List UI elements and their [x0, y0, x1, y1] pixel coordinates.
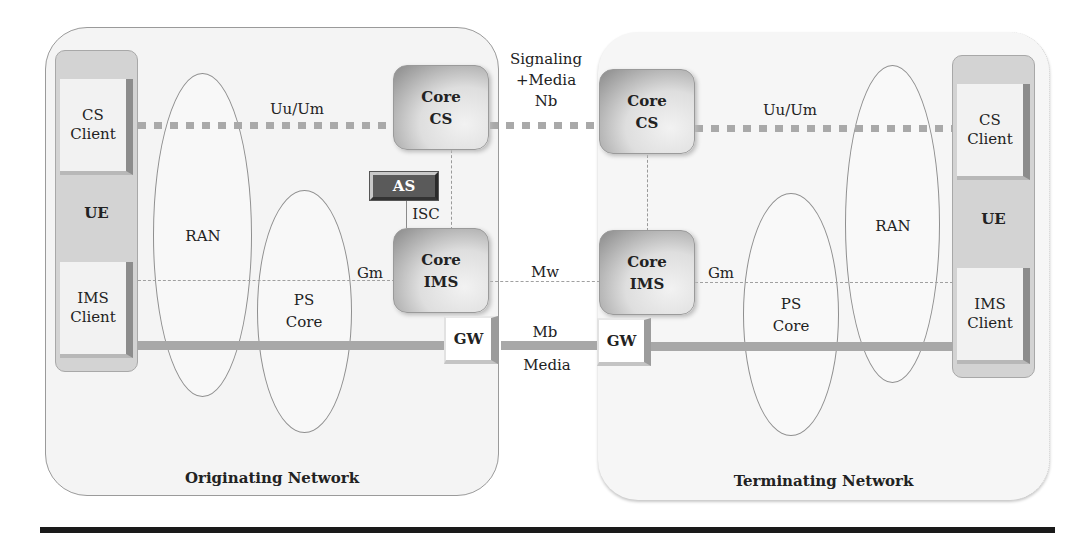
as-node: AS	[370, 172, 438, 200]
media-label: Media	[515, 356, 579, 374]
ran-right-label: RAN	[863, 215, 923, 237]
core-cs-left-line2: CS	[430, 108, 453, 130]
cs-link-right	[695, 125, 953, 132]
gw-left: GW	[444, 316, 498, 364]
media-link-left	[130, 341, 446, 350]
nb-label: Signaling +Media Nb	[506, 49, 586, 112]
core-ims-left-line1: Core	[421, 249, 460, 271]
ps-core-right-label: PS Core	[761, 293, 821, 337]
gm-left-label: Gm	[352, 264, 388, 282]
isc-link	[406, 200, 407, 228]
nb-label-line2: +Media	[506, 70, 586, 91]
core-cs-right-line2: CS	[636, 112, 659, 134]
ims-client-right: IMS Client	[957, 268, 1030, 364]
gm-right-label: Gm	[703, 264, 739, 282]
ims-client-right-line1: IMS	[974, 295, 1006, 314]
ims-client-right-line2: Client	[967, 314, 1013, 333]
gw-right: GW	[597, 318, 651, 366]
core-ims-left-line2: IMS	[424, 271, 458, 293]
cs-client-right-line1: CS	[979, 111, 1001, 130]
cs-client-left-line1: CS	[82, 106, 104, 125]
nb-label-line3: Nb	[506, 91, 586, 112]
cs-client-right: CS Client	[957, 84, 1030, 180]
ps-core-left-label: PS Core	[274, 289, 334, 333]
core-ims-right-line1: Core	[627, 251, 666, 273]
ue-left: CS Client UE IMS Client	[55, 50, 138, 372]
originating-network-label: Originating Network	[46, 469, 498, 487]
core-ims-right: Core IMS	[599, 230, 695, 315]
ran-left-label: RAN	[173, 225, 233, 247]
uu-um-left-label: Uu/Um	[262, 100, 332, 118]
terminating-network-label: Terminating Network	[598, 472, 1049, 490]
mb-label: Mb	[520, 323, 570, 341]
cs-link-left	[138, 122, 396, 129]
mw-link	[490, 281, 600, 282]
cs-client-left: CS Client	[60, 79, 133, 175]
gm-link-right	[695, 282, 953, 283]
ps-core-left-line1: PS	[274, 289, 334, 311]
ps-core-left-line2: Core	[274, 311, 334, 333]
ims-client-left: IMS Client	[60, 262, 133, 358]
mb-media-link	[501, 341, 599, 350]
uu-um-right-label: Uu/Um	[755, 101, 825, 119]
bottom-rule	[40, 527, 1055, 533]
ps-core-right-line2: Core	[761, 315, 821, 337]
cs-client-right-line2: Client	[967, 130, 1013, 149]
core-cs-left: Core CS	[393, 65, 489, 150]
cs-client-left-line2: Client	[70, 125, 116, 144]
ims-client-left-line1: IMS	[77, 289, 109, 308]
ue-right: CS Client UE IMS Client	[952, 55, 1035, 378]
nb-label-line1: Signaling	[506, 49, 586, 70]
ue-left-label: UE	[56, 204, 137, 222]
cs-ims-link-right	[647, 155, 648, 231]
cs-ims-link-left	[451, 150, 452, 230]
core-cs-right-line1: Core	[627, 90, 666, 112]
core-cs-right: Core CS	[599, 69, 695, 154]
core-ims-left: Core IMS	[393, 228, 489, 313]
core-ims-right-line2: IMS	[630, 273, 664, 295]
ps-core-right-line1: PS	[761, 293, 821, 315]
isc-label: ISC	[408, 205, 444, 223]
core-cs-left-line1: Core	[421, 86, 460, 108]
ue-right-label: UE	[953, 210, 1034, 228]
media-link-right	[648, 342, 958, 351]
mw-label: Mw	[520, 263, 570, 281]
ims-client-left-line2: Client	[70, 308, 116, 327]
nb-link	[490, 122, 600, 129]
